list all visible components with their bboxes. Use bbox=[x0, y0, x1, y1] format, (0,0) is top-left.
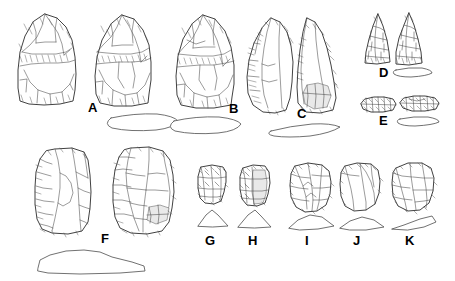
artifact-h-view-1 bbox=[240, 165, 270, 207]
artifact-label-f: F bbox=[101, 232, 109, 245]
artifact-label-j: J bbox=[353, 234, 360, 247]
artifact-label-k: K bbox=[405, 234, 414, 247]
artifact-f-view-1 bbox=[35, 148, 91, 237]
artifact-label-c: C bbox=[297, 107, 306, 120]
artifact-label-i: I bbox=[305, 234, 309, 247]
artifact-e-view-2 bbox=[400, 96, 439, 111]
artifact-f-view-2 bbox=[113, 147, 176, 237]
plate-artwork bbox=[0, 0, 455, 281]
artifact-label-e: E bbox=[379, 114, 388, 127]
artifact-e-view-1 bbox=[361, 97, 396, 112]
artifact-label-b: B bbox=[229, 102, 238, 115]
artifact-label-h: H bbox=[248, 234, 257, 247]
artifact-label-a: A bbox=[88, 101, 97, 114]
artifact-a-profile bbox=[107, 114, 178, 131]
lithic-illustration-plate: A B C D E F G H I J K bbox=[0, 0, 455, 281]
artifact-label-d: D bbox=[379, 66, 388, 79]
artifact-label-g: G bbox=[205, 234, 215, 247]
